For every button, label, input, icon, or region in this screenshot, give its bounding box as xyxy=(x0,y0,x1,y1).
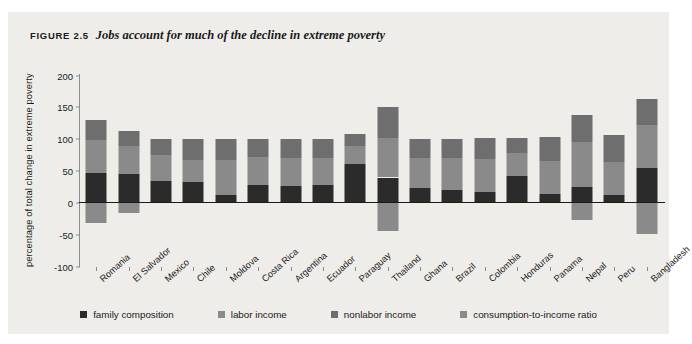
x-axis-tick-mark xyxy=(517,267,518,271)
figure-number: FIGURE 2.5 xyxy=(30,30,89,41)
x-axis-tick-mark xyxy=(647,267,648,271)
stacked-bar[interactable] xyxy=(377,75,398,266)
stacked-bar[interactable] xyxy=(312,75,333,266)
bar-segment xyxy=(280,186,301,203)
bar-segment xyxy=(507,153,528,176)
bar-segment xyxy=(248,139,269,157)
y-axis-tick-label: 150 xyxy=(29,102,80,113)
y-axis-tick-label: -100 xyxy=(29,261,80,272)
bar-segment xyxy=(118,174,139,203)
bar-segment xyxy=(410,188,431,203)
stacked-bar[interactable] xyxy=(636,75,657,266)
legend-swatch xyxy=(218,311,225,318)
stacked-bar[interactable] xyxy=(345,75,366,266)
bar-segment xyxy=(539,137,560,161)
bar-group[interactable]: El Salvador xyxy=(112,75,144,266)
legend-label: nonlabor income xyxy=(344,309,416,320)
x-axis-tick-mark xyxy=(193,267,194,271)
x-axis-tick-mark xyxy=(355,267,356,271)
bar-group[interactable]: Bangladesh xyxy=(631,75,663,266)
bar-group[interactable]: Mexico xyxy=(145,75,177,266)
stacked-bar[interactable] xyxy=(215,75,236,266)
bar-segment xyxy=(442,158,463,190)
bar-segment xyxy=(345,134,366,147)
stacked-bar[interactable] xyxy=(410,75,431,266)
bar-segment xyxy=(86,120,107,140)
legend-item[interactable]: nonlabor income xyxy=(331,309,416,320)
x-axis-tick-mark xyxy=(550,267,551,271)
bar-group[interactable]: Romania xyxy=(80,75,112,266)
x-axis-tick-mark xyxy=(420,267,421,271)
bar-segment-negative xyxy=(86,202,107,222)
bar-group[interactable]: Costa Rica xyxy=(242,75,274,266)
bar-group[interactable]: Ghana xyxy=(404,75,436,266)
legend-label: labor income xyxy=(231,309,287,320)
bar-segment-negative xyxy=(572,202,593,220)
stacked-bar[interactable] xyxy=(442,75,463,266)
bar-group[interactable]: Colombia xyxy=(469,75,501,266)
bar-segment xyxy=(636,125,657,168)
bar-segment xyxy=(604,135,625,161)
figure-title-text: Jobs account for much of the decline in … xyxy=(96,28,385,42)
figure-panel: FIGURE 2.5Jobs account for much of the d… xyxy=(8,12,669,334)
bar-segment xyxy=(312,185,333,202)
y-axis-tick-mark xyxy=(76,266,80,267)
stacked-bar[interactable] xyxy=(474,75,495,266)
y-axis-tick-label: 0 xyxy=(29,197,80,208)
legend-swatch xyxy=(331,311,338,318)
bar-group[interactable]: Honduras xyxy=(501,75,533,266)
y-axis-tick-label: 50 xyxy=(29,166,80,177)
stacked-bar[interactable] xyxy=(572,75,593,266)
stacked-bar[interactable] xyxy=(183,75,204,266)
bar-segment xyxy=(345,164,366,202)
bar-segment xyxy=(539,161,560,194)
bar-segment xyxy=(572,187,593,202)
bar-group[interactable]: Moldova xyxy=(210,75,242,266)
bar-segment xyxy=(507,138,528,153)
x-axis-tick-mark xyxy=(388,267,389,271)
bar-segment xyxy=(377,107,398,138)
bar-segment xyxy=(377,138,398,177)
stacked-bar[interactable] xyxy=(539,75,560,266)
stacked-bar[interactable] xyxy=(118,75,139,266)
bar-segment xyxy=(86,173,107,202)
bar-group[interactable]: Ecuador xyxy=(307,75,339,266)
bar-segment xyxy=(474,192,495,202)
bar-segment xyxy=(604,162,625,195)
plot-area: 200150100500-50-100RomaniaEl SalvadorMex… xyxy=(80,75,663,266)
bar-segment-negative xyxy=(636,202,657,233)
bar-segment-negative xyxy=(118,202,139,213)
zero-baseline xyxy=(79,202,665,203)
bar-segment xyxy=(572,142,593,187)
bar-group[interactable]: Thailand xyxy=(372,75,404,266)
legend-item[interactable]: labor income xyxy=(218,309,287,320)
x-axis-tick-label: Peru xyxy=(616,264,637,284)
x-axis-tick-mark xyxy=(582,267,583,271)
stacked-bar[interactable] xyxy=(280,75,301,266)
legend-label: consumption-to-income ratio xyxy=(473,309,597,320)
bar-group[interactable]: Argentina xyxy=(274,75,306,266)
stacked-bar[interactable] xyxy=(507,75,528,266)
x-axis-tick-mark xyxy=(452,267,453,271)
bar-group[interactable]: Chile xyxy=(177,75,209,266)
stacked-bar[interactable] xyxy=(604,75,625,266)
bar-group[interactable]: Peru xyxy=(598,75,630,266)
bar-group[interactable]: Panama xyxy=(533,75,565,266)
legend-item[interactable]: consumption-to-income ratio xyxy=(460,309,597,320)
y-axis-tick-label: -50 xyxy=(29,229,80,240)
bar-segment xyxy=(118,146,139,174)
stacked-bar[interactable] xyxy=(248,75,269,266)
legend-item[interactable]: family composition xyxy=(80,309,174,320)
bar-group[interactable]: Paraguay xyxy=(339,75,371,266)
bar-group[interactable]: Nepal xyxy=(566,75,598,266)
bar-segment xyxy=(150,139,171,155)
bar-segment xyxy=(150,181,171,202)
bar-segment xyxy=(474,138,495,159)
bar-segment xyxy=(150,155,171,182)
legend-label: family composition xyxy=(93,309,174,320)
bar-group[interactable]: Brazil xyxy=(436,75,468,266)
stacked-bar[interactable] xyxy=(86,75,107,266)
stacked-bar[interactable] xyxy=(150,75,171,266)
bar-segment xyxy=(474,159,495,192)
bar-segment xyxy=(248,157,269,184)
